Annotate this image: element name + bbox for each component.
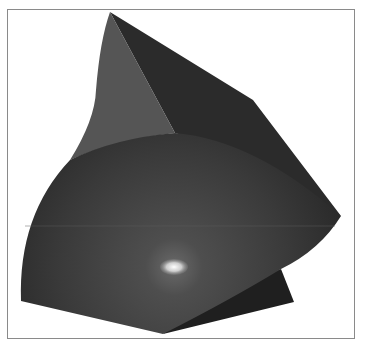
rendered-3d-shape [0, 0, 365, 346]
specular-highlight [160, 259, 188, 275]
